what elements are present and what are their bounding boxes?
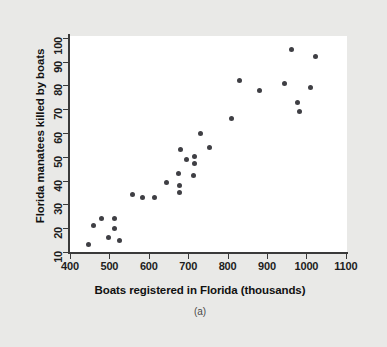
y-tick-label: 10 [52,251,64,277]
y-tick-label: 20 [52,227,64,253]
scatter-point [152,195,157,200]
scatter-point [282,81,287,86]
plot-panel [69,36,347,252]
x-tick-mark [306,254,307,259]
x-tick-mark [149,254,150,259]
x-tick-label: 900 [247,260,287,272]
x-tick-mark [188,254,189,259]
y-tick-label: 80 [52,84,64,110]
y-tick-label: 60 [52,132,64,158]
x-tick-label: 500 [89,260,129,272]
figure-caption: (a) [40,306,360,317]
x-tick-mark [267,254,268,259]
y-tick-label: 100 [52,37,64,63]
x-tick-mark [109,254,110,259]
scatter-point [176,171,181,176]
y-tick-label: 90 [52,61,64,87]
y-tick-label: 30 [52,203,64,229]
scatter-point [257,88,262,93]
y-tick-label: 70 [52,108,64,134]
scatter-point [229,116,234,121]
x-tick-mark [70,254,71,259]
scatter-point [177,190,182,195]
y-axis-line [68,34,70,254]
scatter-point [112,226,117,231]
x-tick-label: 800 [208,260,248,272]
x-tick-label: 1000 [286,260,326,272]
y-axis-title: Florida manatees killed by boats [34,26,46,246]
figure-container: 40050060070080090010001100 1020304050607… [0,0,387,347]
y-tick-label: 40 [52,180,64,206]
scatter-point [117,238,122,243]
scatter-point [198,131,203,136]
x-tick-label: 700 [168,260,208,272]
scatter-point [184,157,189,162]
y-tick-label: 50 [52,156,64,182]
x-tick-label: 1100 [326,260,366,272]
x-tick-label: 600 [129,260,169,272]
x-tick-mark [228,254,229,259]
x-tick-mark [346,254,347,259]
scatter-point [295,100,300,105]
x-axis-title: Boats registered in Florida (thousands) [40,284,360,296]
